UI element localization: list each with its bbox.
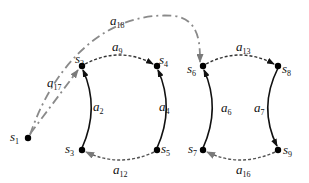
node-s7 <box>200 147 206 153</box>
edge-a13 <box>206 55 274 64</box>
edge-a2 <box>82 70 91 148</box>
node-s9 <box>275 147 281 153</box>
label-a17: a17 <box>47 76 62 92</box>
edge-a9 <box>85 55 153 64</box>
label-s6: s6 <box>187 62 196 78</box>
state-transition-diagram: s1 s2 s3 s4 s5 s6 s7 s8 s9 a2 a4 a6 a7 a… <box>0 0 309 183</box>
label-a9: a9 <box>112 40 123 56</box>
label-s8: s8 <box>282 62 291 78</box>
label-a16: a16 <box>236 163 251 179</box>
label-s1: s1 <box>10 130 19 146</box>
label-a6: a6 <box>221 101 232 117</box>
label-s9: s9 <box>283 143 292 159</box>
edge-a7 <box>268 68 278 146</box>
label-s7: s7 <box>188 142 197 158</box>
label-s2: s2 <box>75 52 84 68</box>
edge-a6 <box>203 70 212 148</box>
label-a7: a7 <box>254 101 265 117</box>
label-s5: s5 <box>161 142 170 158</box>
label-a18: a18 <box>110 14 125 30</box>
edge-a12 <box>86 152 154 160</box>
node-s1 <box>25 135 31 141</box>
node-s3 <box>79 147 85 153</box>
node-s6 <box>200 63 206 69</box>
label-a12: a12 <box>113 163 128 179</box>
node-s8 <box>275 63 281 69</box>
label-s4: s4 <box>159 53 168 69</box>
label-s3: s3 <box>65 142 74 158</box>
label-a4: a4 <box>159 100 170 116</box>
label-a2: a2 <box>93 100 104 116</box>
label-a13: a13 <box>236 40 251 56</box>
node-s5 <box>154 147 160 153</box>
edge-a16 <box>207 152 275 160</box>
